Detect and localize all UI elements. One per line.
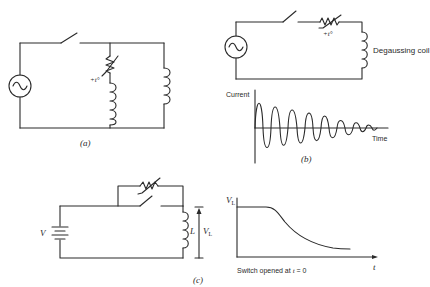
damped-oscillation-curve: [255, 103, 377, 147]
battery-icon: [52, 227, 68, 239]
voltage-decay-curve: [237, 207, 350, 249]
wire: [339, 22, 362, 32]
switch-icon: [283, 11, 296, 22]
y-axis-label: VL: [226, 195, 236, 206]
voltage-arrow-icon: [195, 207, 203, 258]
panel-label-b: (b): [301, 154, 312, 164]
panel-c-graph: VL t Switch opened at t = 0: [226, 195, 378, 275]
figure-canvas: +t° (a) +t°: [0, 0, 430, 287]
panel-b-circuit: +t° Degaussing coil: [225, 11, 430, 79]
inductor-icon: [183, 212, 188, 248]
switch-icon: [61, 33, 77, 43]
panel-label-c: (c): [193, 275, 203, 285]
wire: [158, 186, 183, 206]
ac-source-icon: [9, 75, 31, 97]
degaussing-coil-icon: [362, 32, 367, 68]
ac-source-icon: [225, 36, 247, 58]
panel-b-graph: Current Time (b): [226, 90, 388, 164]
graph-caption: Switch opened at t = 0: [237, 267, 307, 275]
thermistor-icon: [138, 178, 160, 194]
x-axis-label: Time: [372, 135, 387, 142]
battery-label: V: [40, 228, 47, 238]
y-axis-label: Current: [226, 91, 249, 98]
panel-c-circuit: V L VL (c): [40, 178, 213, 285]
x-axis-label: t: [373, 262, 376, 272]
panel-a-circuit: +t° (a): [9, 33, 170, 148]
switch-icon: [140, 196, 152, 206]
wire: [118, 186, 140, 206]
wire: [60, 240, 183, 258]
panel-label-a: (a): [80, 138, 91, 148]
ptc-thermistor-icon: [319, 15, 341, 28]
thermistor-label: +t°: [90, 76, 100, 84]
inductor-icon: [110, 83, 116, 125]
x-axis-arrow-icon: [372, 255, 378, 259]
voltage-label: VL: [203, 226, 213, 237]
coil-label: Degaussing coil: [373, 46, 430, 55]
inductor-icon: [164, 68, 170, 104]
wire: [236, 68, 362, 79]
inductor-label: L: [189, 226, 195, 236]
thermistor-label: +t°: [323, 30, 333, 38]
